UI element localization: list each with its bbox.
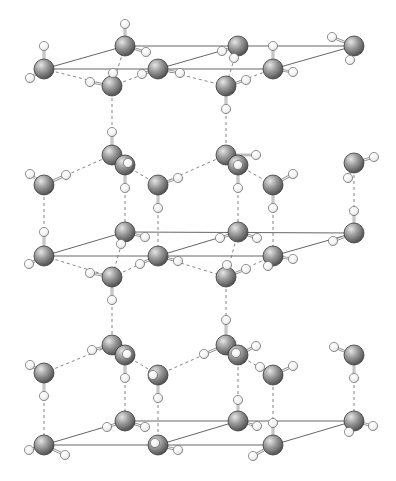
water-molecule: [25, 360, 54, 400]
hydrogen-atom: [328, 236, 337, 245]
hydrogen-atom: [107, 295, 116, 304]
hydrogen-atom: [233, 160, 242, 169]
hydrogen-atom: [39, 227, 48, 236]
oxygen-atom: [34, 435, 54, 455]
oxygen-atom: [228, 222, 248, 242]
oxygen-atom: [344, 153, 364, 173]
oxygen-atom: [228, 411, 248, 431]
hydrogen-atom: [233, 183, 242, 192]
hydrogen-atom: [229, 53, 238, 62]
unit-cell-edge: [273, 421, 354, 445]
hydrogen-atom: [153, 203, 162, 212]
oxygen-atom: [228, 36, 248, 56]
hydrogen-atom: [349, 373, 358, 382]
hydrogen-atom: [137, 69, 146, 78]
hydrogen-atom: [148, 370, 157, 379]
oxygen-atom: [344, 223, 364, 243]
hydrogen-atom: [251, 341, 260, 350]
water-molecule: [135, 246, 182, 269]
hydrogen-atom: [25, 73, 34, 82]
hydrogen-atom: [241, 75, 250, 84]
hydrogen-atom: [288, 254, 297, 263]
hydrogen-atom: [108, 68, 117, 77]
hydrogen-atom: [39, 41, 48, 50]
hydrogen-atom: [263, 261, 272, 270]
hydrogen-atom: [140, 422, 149, 431]
hydrogen-atom: [329, 342, 338, 351]
hydrogen-atom: [268, 203, 277, 212]
oxygen-atom: [263, 175, 283, 195]
hydrogen-atom: [102, 422, 111, 431]
oxygen-atom: [34, 175, 54, 195]
hydrogen-atom: [120, 19, 129, 28]
oxygen-atom: [148, 246, 168, 266]
hydrogen-atom: [24, 445, 33, 454]
water-molecule: [115, 345, 135, 383]
oxygen-atom: [263, 435, 283, 455]
water-molecule: [115, 222, 150, 249]
hydrogen-atom: [61, 170, 70, 179]
oxygen-atom: [115, 411, 135, 431]
water-molecule: [343, 152, 378, 182]
oxygen-atom: [34, 246, 54, 266]
hydrogen-atom: [60, 450, 69, 459]
hydrogen-atom: [251, 150, 260, 159]
hydrogen-atom: [233, 395, 242, 404]
hydrogen-atom: [368, 421, 377, 430]
oxygen-atom: [34, 59, 54, 79]
hydrogen-atom: [25, 169, 34, 178]
water-molecule: [263, 169, 298, 212]
hydrogen-atom: [120, 183, 129, 192]
hydrogen-atom: [107, 127, 116, 136]
water-molecule: [329, 342, 364, 382]
hydrogen-atom: [87, 345, 96, 354]
hydrogen-atom: [215, 233, 224, 242]
hydrogen-atom: [173, 445, 182, 454]
hydrogen-atom: [255, 362, 264, 371]
hydrogen-atom: [199, 349, 208, 358]
hydrogen-atom: [241, 264, 250, 273]
water-molecule: [25, 41, 54, 82]
oxygen-atom: [216, 76, 236, 96]
hydrogen-atom: [268, 41, 277, 50]
hydrogen-atom: [248, 451, 257, 460]
hydrogen-atom: [327, 32, 336, 41]
oxygen-atom: [102, 267, 122, 287]
hydrogen-atom: [140, 232, 149, 241]
water-molecule: [328, 206, 364, 245]
hydrogen-atom: [369, 152, 378, 161]
oxygen-atom: [148, 59, 168, 79]
unit-cell-lines: [44, 46, 354, 445]
hydrogen-atom: [123, 158, 132, 167]
hydrogen-atom: [120, 373, 129, 382]
water-molecule: [327, 32, 364, 64]
ice-crystal-structure-diagram: [0, 0, 396, 481]
hydrogen-atom: [85, 77, 94, 86]
oxygen-atom: [263, 365, 283, 385]
hydrogen-atom: [252, 233, 261, 242]
water-molecule: [85, 267, 122, 305]
water-molecule: [255, 361, 297, 385]
water-molecule: [228, 395, 262, 431]
water-molecule: [115, 19, 151, 56]
hydrogen-atom: [252, 421, 261, 430]
hydrogen-atom: [173, 173, 182, 182]
oxygen-atom: [102, 76, 122, 96]
water-molecule: [263, 246, 298, 271]
hydrogen-atom: [221, 315, 230, 324]
hydrogen-atom: [141, 47, 150, 56]
water-molecule: [24, 435, 69, 460]
water-molecule: [228, 155, 248, 193]
water-molecule: [216, 75, 251, 113]
water-molecule: [148, 173, 183, 212]
water-molecule: [24, 227, 54, 268]
water-molecule: [115, 155, 135, 193]
hydrogen-atom: [344, 427, 353, 436]
hydrogen-atom: [288, 361, 297, 370]
hydrogen-atom: [217, 46, 226, 55]
oxygen-atom: [34, 363, 54, 383]
hydrogen-bond: [44, 345, 112, 373]
water-molecule: [148, 365, 168, 403]
hydrogen-atom: [173, 256, 182, 265]
water-molecule: [217, 36, 248, 63]
